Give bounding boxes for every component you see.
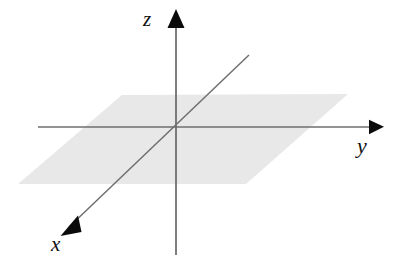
x-axis-label: x <box>51 234 60 255</box>
y-axis-label: y <box>357 135 367 157</box>
z-axis-label: z <box>143 9 151 30</box>
coordinate-axes-figure: z y x <box>0 0 400 266</box>
x-axis-arrowhead-icon <box>61 216 82 237</box>
xy-plane-shape <box>18 94 348 184</box>
z-axis-arrowhead-icon <box>168 9 185 28</box>
y-axis-arrowhead-icon <box>369 120 384 135</box>
axes-canvas <box>0 0 400 266</box>
